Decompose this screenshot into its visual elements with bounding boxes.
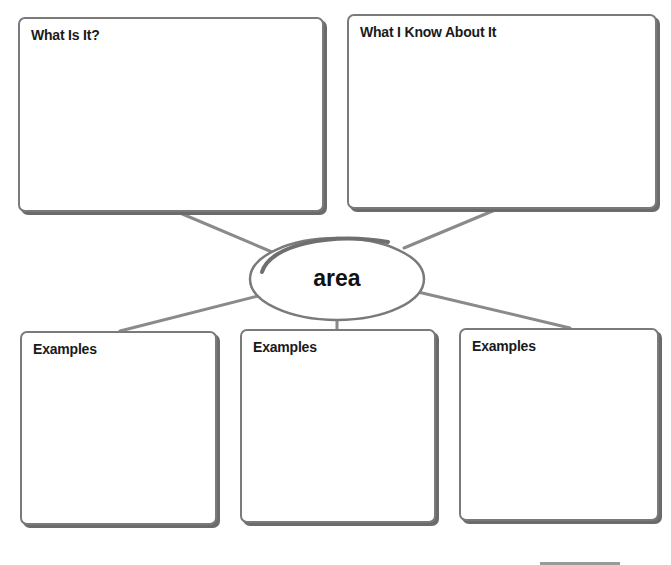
examples-box-2[interactable]: Examples [240, 329, 436, 523]
examples-label-3: Examples [472, 338, 536, 354]
what-i-know-box[interactable]: What I Know About It [347, 14, 657, 209]
what-is-it-box[interactable]: What Is It? [18, 17, 324, 212]
connector-examples-3 [418, 292, 570, 328]
what-is-it-label: What Is It? [31, 27, 100, 43]
center-term: area [249, 258, 425, 298]
examples-label-1: Examples [33, 341, 97, 357]
what-i-know-label: What I Know About It [360, 24, 496, 40]
connector-examples-1 [120, 296, 258, 331]
connector-what-is-it [180, 213, 272, 252]
examples-label-2: Examples [253, 339, 317, 355]
examples-box-3[interactable]: Examples [459, 328, 659, 521]
connector-what-i-know [404, 210, 495, 248]
examples-box-1[interactable]: Examples [20, 331, 217, 525]
